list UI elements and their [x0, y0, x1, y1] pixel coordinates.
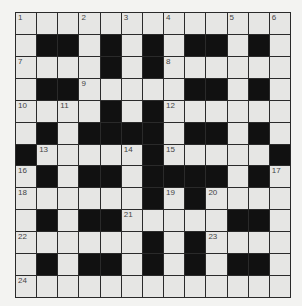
crossword-cell[interactable]: [37, 101, 57, 122]
crossword-cell[interactable]: [249, 276, 269, 297]
crossword-cell[interactable]: [228, 35, 248, 56]
crossword-cell[interactable]: 12: [164, 101, 184, 122]
crossword-cell[interactable]: [16, 254, 36, 275]
crossword-cell[interactable]: 5: [228, 13, 248, 34]
crossword-cell[interactable]: [122, 232, 142, 253]
crossword-cell[interactable]: [270, 276, 290, 297]
crossword-cell[interactable]: [122, 166, 142, 187]
crossword-cell[interactable]: 18: [16, 188, 36, 209]
crossword-cell[interactable]: [249, 57, 269, 78]
crossword-cell[interactable]: [122, 276, 142, 297]
crossword-cell[interactable]: [270, 35, 290, 56]
crossword-cell[interactable]: 2: [79, 13, 99, 34]
crossword-cell[interactable]: [58, 145, 78, 166]
crossword-cell[interactable]: [206, 145, 226, 166]
crossword-cell[interactable]: 7: [16, 57, 36, 78]
crossword-cell[interactable]: [249, 101, 269, 122]
crossword-cell[interactable]: [185, 101, 205, 122]
crossword-cell[interactable]: [122, 101, 142, 122]
crossword-cell[interactable]: [16, 35, 36, 56]
crossword-cell[interactable]: 22: [16, 232, 36, 253]
crossword-cell[interactable]: 13: [37, 145, 57, 166]
crossword-cell[interactable]: 15: [164, 145, 184, 166]
crossword-cell[interactable]: [185, 57, 205, 78]
crossword-cell[interactable]: 17: [270, 166, 290, 187]
crossword-cell[interactable]: [228, 57, 248, 78]
crossword-cell[interactable]: [79, 188, 99, 209]
crossword-cell[interactable]: [58, 13, 78, 34]
crossword-cell[interactable]: [228, 276, 248, 297]
crossword-cell[interactable]: [206, 101, 226, 122]
crossword-cell[interactable]: 11: [58, 101, 78, 122]
crossword-cell[interactable]: [58, 123, 78, 144]
crossword-cell[interactable]: [228, 123, 248, 144]
crossword-cell[interactable]: [228, 188, 248, 209]
crossword-cell[interactable]: [270, 210, 290, 231]
crossword-cell[interactable]: [185, 210, 205, 231]
crossword-cell[interactable]: [122, 57, 142, 78]
crossword-cell[interactable]: [228, 232, 248, 253]
crossword-cell[interactable]: [79, 145, 99, 166]
crossword-cell[interactable]: [122, 254, 142, 275]
crossword-cell[interactable]: 6: [270, 13, 290, 34]
crossword-cell[interactable]: [206, 57, 226, 78]
crossword-cell[interactable]: [37, 188, 57, 209]
crossword-cell[interactable]: [270, 79, 290, 100]
crossword-cell[interactable]: [16, 210, 36, 231]
crossword-cell[interactable]: [164, 79, 184, 100]
crossword-cell[interactable]: [79, 101, 99, 122]
crossword-cell[interactable]: [101, 145, 121, 166]
crossword-cell[interactable]: 23: [206, 232, 226, 253]
crossword-cell[interactable]: [101, 276, 121, 297]
crossword-cell[interactable]: [228, 79, 248, 100]
crossword-cell[interactable]: [16, 79, 36, 100]
crossword-cell[interactable]: [37, 276, 57, 297]
crossword-cell[interactable]: [58, 188, 78, 209]
crossword-cell[interactable]: [101, 79, 121, 100]
crossword-cell[interactable]: [185, 13, 205, 34]
crossword-cell[interactable]: [270, 57, 290, 78]
crossword-cell[interactable]: 10: [16, 101, 36, 122]
crossword-cell[interactable]: [249, 232, 269, 253]
crossword-cell[interactable]: [37, 57, 57, 78]
crossword-cell[interactable]: [58, 166, 78, 187]
crossword-cell[interactable]: [164, 210, 184, 231]
crossword-cell[interactable]: [58, 232, 78, 253]
crossword-cell[interactable]: 1: [16, 13, 36, 34]
crossword-cell[interactable]: 19: [164, 188, 184, 209]
crossword-cell[interactable]: [122, 79, 142, 100]
crossword-cell[interactable]: 3: [122, 13, 142, 34]
crossword-cell[interactable]: [249, 13, 269, 34]
crossword-cell[interactable]: [270, 188, 290, 209]
crossword-cell[interactable]: [79, 57, 99, 78]
crossword-cell[interactable]: [249, 188, 269, 209]
crossword-cell[interactable]: [185, 145, 205, 166]
crossword-cell[interactable]: [164, 276, 184, 297]
crossword-cell[interactable]: [37, 13, 57, 34]
crossword-cell[interactable]: [164, 232, 184, 253]
crossword-cell[interactable]: [228, 166, 248, 187]
crossword-cell[interactable]: 4: [164, 13, 184, 34]
crossword-cell[interactable]: 14: [122, 145, 142, 166]
crossword-cell[interactable]: [206, 13, 226, 34]
crossword-cell[interactable]: [164, 35, 184, 56]
crossword-cell[interactable]: [206, 254, 226, 275]
crossword-cell[interactable]: [122, 35, 142, 56]
crossword-cell[interactable]: [16, 123, 36, 144]
crossword-cell[interactable]: 24: [16, 276, 36, 297]
crossword-cell[interactable]: [58, 210, 78, 231]
crossword-cell[interactable]: [206, 276, 226, 297]
crossword-cell[interactable]: [58, 57, 78, 78]
crossword-cell[interactable]: [164, 123, 184, 144]
crossword-cell[interactable]: 8: [164, 57, 184, 78]
crossword-cell[interactable]: [164, 254, 184, 275]
crossword-cell[interactable]: [270, 101, 290, 122]
crossword-cell[interactable]: 16: [16, 166, 36, 187]
crossword-cell[interactable]: [37, 232, 57, 253]
crossword-cell[interactable]: [143, 13, 163, 34]
crossword-cell[interactable]: [79, 232, 99, 253]
crossword-cell[interactable]: [101, 232, 121, 253]
crossword-cell[interactable]: [143, 210, 163, 231]
crossword-cell[interactable]: [79, 276, 99, 297]
crossword-cell[interactable]: [58, 254, 78, 275]
